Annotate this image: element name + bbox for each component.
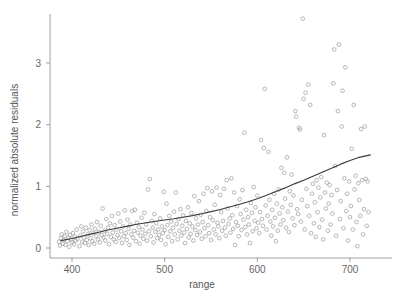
x-tick-label: 600 (249, 264, 266, 275)
plot-background (0, 0, 404, 303)
x-tick-label: 500 (156, 264, 173, 275)
x-tick-label: 700 (342, 264, 359, 275)
y-tick-label: 2 (35, 119, 41, 130)
x-tick-label: 400 (64, 264, 81, 275)
y-axis-title: normalized absolute residuals (9, 84, 20, 216)
chart-figure: 400500600700 0123 range normalized absol… (0, 0, 404, 303)
y-tick-label: 1 (35, 181, 41, 192)
y-tick-label: 0 (35, 243, 41, 254)
y-tick-label: 3 (35, 58, 41, 69)
x-axis-title: range (189, 279, 215, 290)
scatter-plot: 400500600700 0123 range normalized absol… (0, 0, 404, 303)
